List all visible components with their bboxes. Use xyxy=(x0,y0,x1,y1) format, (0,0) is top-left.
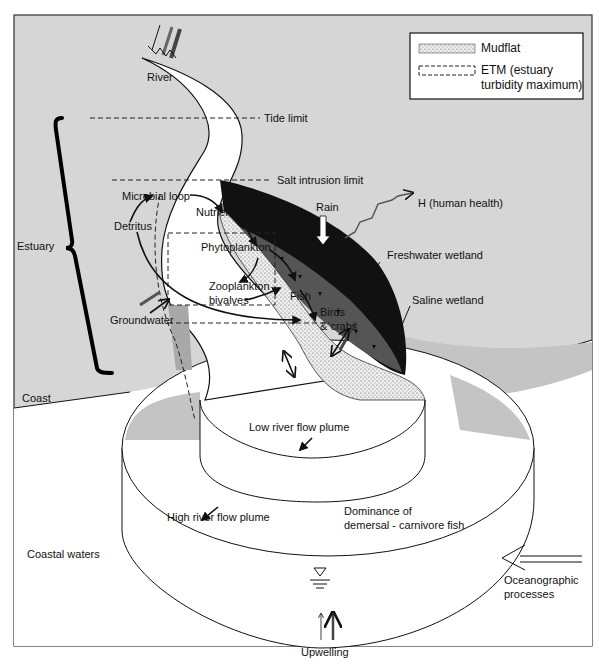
label-dominance: Dominance of xyxy=(344,505,413,517)
legend: Mudflat ETM (estuary turbidity maximum) xyxy=(410,33,583,99)
label-salt-intrusion-limit: Salt intrusion limit xyxy=(277,174,363,186)
label-upwelling: Upwelling xyxy=(301,646,349,658)
label-fish: Fish xyxy=(290,290,311,302)
label-nutrient: Nutrient xyxy=(196,206,235,218)
label-high-river-flow-plume: High river flow plume xyxy=(167,511,270,523)
label-demersal-carnivore-fish: demersal - carnivore fish xyxy=(344,519,464,531)
label-tide-limit: Tide limit xyxy=(264,112,308,124)
estuary-ecosystem-diagram: Mudflat ETM (estuary turbidity maximum) … xyxy=(0,0,599,664)
legend-mudflat-swatch xyxy=(419,44,475,53)
label-coast: Coast xyxy=(22,392,51,404)
label-detritus: Detritus xyxy=(114,220,152,232)
label-bivalves: bivalves xyxy=(209,294,249,306)
label-zooplankton: Zooplankton xyxy=(209,280,270,292)
label-crabs: & crabs xyxy=(320,320,358,332)
legend-mudflat-label: Mudflat xyxy=(481,41,521,55)
label-microbial-loop: Microbial loop xyxy=(122,190,190,202)
label-estuary: Estuary xyxy=(17,240,55,252)
low-river-flow-plume-disk xyxy=(200,400,425,502)
label-groundwater: Groundwater xyxy=(110,314,174,326)
label-rain: Rain xyxy=(316,201,339,213)
label-saline-wetland: Saline wetland xyxy=(412,294,484,306)
legend-etm-swatch xyxy=(419,66,475,75)
label-low-river-flow-plume: Low river flow plume xyxy=(249,421,349,433)
label-processes: processes xyxy=(504,588,555,600)
label-river: River xyxy=(147,71,173,83)
label-oceanographic: Oceanographic xyxy=(504,574,579,586)
legend-etm-label-2: turbidity maximum) xyxy=(481,78,582,92)
label-phytoplankton: Phytoplankton xyxy=(201,241,271,253)
label-freshwater-wetland: Freshwater wetland xyxy=(387,249,483,261)
label-coastal-waters: Coastal waters xyxy=(27,548,100,560)
label-birds: Birds xyxy=(320,306,346,318)
label-human-health: H (human health) xyxy=(418,197,503,209)
legend-etm-label-1: ETM (estuary xyxy=(481,63,553,77)
